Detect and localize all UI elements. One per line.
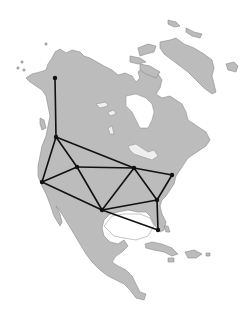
- aleutian-island: [23, 69, 25, 71]
- graph-edge: [157, 200, 158, 230]
- coastal-island: [40, 118, 46, 130]
- arctic-island-3: [138, 44, 156, 56]
- graph-node: [100, 208, 104, 212]
- aleutian-island: [17, 67, 19, 69]
- mainland: [26, 49, 210, 300]
- graph-node: [156, 228, 160, 232]
- north-america-map: [0, 0, 252, 321]
- graph-node: [54, 135, 58, 139]
- iceland: [226, 62, 238, 72]
- graph-node: [170, 173, 174, 177]
- graph-node: [155, 198, 159, 202]
- jamaica: [168, 258, 174, 262]
- graph-node: [40, 180, 44, 184]
- landmass: [17, 20, 238, 300]
- graph-edge: [77, 167, 134, 168]
- gulf-of-mexico: [104, 214, 154, 240]
- aleutian-island: [45, 43, 47, 45]
- graph-edge: [55, 78, 56, 137]
- graph-node: [75, 165, 79, 169]
- arctic-island-1: [168, 20, 180, 27]
- aleutian-island: [21, 61, 23, 63]
- arctic-island-4: [130, 56, 146, 64]
- greenland: [160, 38, 216, 94]
- hispaniola: [185, 250, 202, 258]
- arctic-island-2: [186, 28, 202, 38]
- bahamas: [164, 226, 170, 232]
- graph-node: [132, 166, 136, 170]
- puerto-rico: [206, 253, 210, 256]
- graph-node: [53, 76, 57, 80]
- cuba: [145, 242, 178, 256]
